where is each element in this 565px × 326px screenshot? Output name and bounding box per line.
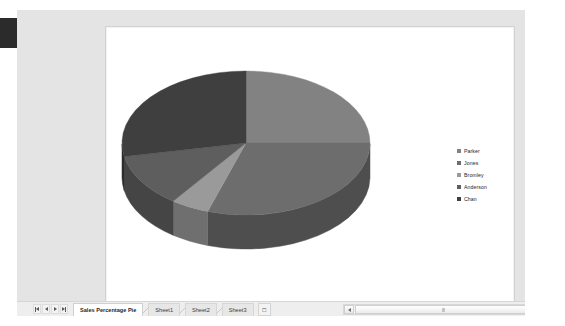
first-sheet-button[interactable] xyxy=(33,304,41,314)
sheet-tab-sheet3[interactable]: Sheet3 xyxy=(222,303,254,316)
pie-svg xyxy=(120,51,372,243)
legend-item[interactable]: Bromley xyxy=(457,169,515,181)
pie-3d-stage xyxy=(120,51,372,243)
chart-plot-area[interactable]: Parker Jones Bromley Anderson xyxy=(112,33,508,298)
pie-chart[interactable] xyxy=(120,51,372,243)
legend-item[interactable]: Parker xyxy=(457,145,515,157)
horizontal-scrollbar[interactable] xyxy=(343,304,543,315)
pie-slice[interactable] xyxy=(122,71,246,156)
pie-slice[interactable] xyxy=(246,71,370,143)
legend-item[interactable]: Jones xyxy=(457,157,515,169)
pie-top-faces xyxy=(122,71,370,215)
legend-item[interactable]: Chan xyxy=(457,193,515,205)
legend-item-label: Bromley xyxy=(464,169,484,181)
sheet-tab-sales-percentage-pie[interactable]: Sales Percentage Pie xyxy=(73,303,143,316)
chart-work-area: Parker Jones Bromley Anderson xyxy=(17,10,525,302)
chart-sheet[interactable]: Parker Jones Bromley Anderson xyxy=(105,26,515,305)
insert-sheet-icon[interactable]: ☐ xyxy=(258,303,271,316)
legend-item-label: Jones xyxy=(464,157,478,169)
legend-item-label: Parker xyxy=(464,145,480,157)
horizontal-scrollbar-thumb[interactable] xyxy=(355,305,531,314)
legend-swatch-icon xyxy=(457,185,461,189)
sheet-tab-sheet1[interactable]: Sheet1 xyxy=(148,303,180,316)
window-bottom-margin xyxy=(0,316,565,326)
window-top-margin xyxy=(0,0,565,10)
sheet-nav-buttons xyxy=(17,304,68,314)
legend-swatch-icon xyxy=(457,161,461,165)
sheet-tab-sheet2[interactable]: Sheet2 xyxy=(185,303,217,316)
next-sheet-button[interactable] xyxy=(51,304,59,314)
legend-swatch-icon xyxy=(457,173,461,177)
previous-sheet-button[interactable] xyxy=(42,304,50,314)
last-sheet-button[interactable] xyxy=(60,304,68,314)
window-right-margin xyxy=(525,0,565,326)
legend-swatch-icon xyxy=(457,149,461,153)
spreadsheet-window: Parker Jones Bromley Anderson xyxy=(0,0,565,326)
chart-legend[interactable]: Parker Jones Bromley Anderson xyxy=(457,145,515,205)
legend-item-label: Anderson xyxy=(464,181,487,193)
scrollbar-grip-icon xyxy=(442,308,445,312)
scroll-left-arrow-icon[interactable] xyxy=(344,305,354,314)
legend-item-label: Chan xyxy=(464,193,477,205)
legend-swatch-icon xyxy=(457,197,461,201)
sheet-tabs: Sales Percentage Pie Sheet1 Sheet2 Sheet… xyxy=(73,302,271,316)
legend-item[interactable]: Anderson xyxy=(457,181,515,193)
row-header-marker xyxy=(0,18,18,48)
